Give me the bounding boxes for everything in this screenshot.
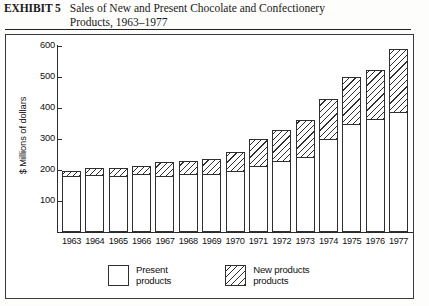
legend-swatch-hatched-square bbox=[225, 265, 246, 286]
bar-1974 bbox=[319, 99, 338, 232]
bar-segment-present-products-1971 bbox=[250, 167, 267, 231]
bar-segment-present-products-1967 bbox=[156, 177, 173, 231]
bar-1973 bbox=[296, 120, 315, 232]
bar-segment-present-products-1969 bbox=[203, 175, 220, 231]
bar-1967 bbox=[155, 162, 174, 232]
x-tick-label-1977: 1977 bbox=[382, 236, 416, 246]
bar-segment-present-products-1977 bbox=[390, 113, 407, 231]
legend-label-line-2: products bbox=[136, 275, 171, 286]
legend-item-present-products: Presentproducts bbox=[108, 264, 171, 286]
bar-1965 bbox=[109, 168, 128, 232]
legend-label: New productsproducts bbox=[253, 264, 309, 286]
bar-segment-new-products-1970 bbox=[227, 153, 244, 172]
bar-1969 bbox=[202, 159, 221, 232]
bar-segment-new-products-1968 bbox=[180, 162, 197, 176]
bar-segment-present-products-1963 bbox=[63, 177, 80, 231]
legend-label: Presentproducts bbox=[136, 264, 171, 286]
bar-1977 bbox=[389, 49, 408, 232]
bar-segment-present-products-1964 bbox=[86, 176, 103, 231]
legend-label-line-1: New products bbox=[253, 264, 309, 275]
bar-segment-new-products-1977 bbox=[390, 50, 407, 113]
chart-legend: PresentproductsNew productsproducts bbox=[108, 264, 309, 286]
bar-1971 bbox=[249, 139, 268, 232]
bar-segment-present-products-1966 bbox=[133, 175, 150, 231]
bar-segment-new-products-1974 bbox=[320, 100, 337, 139]
bar-segment-present-products-1968 bbox=[180, 175, 197, 231]
bar-segment-present-products-1976 bbox=[367, 120, 384, 231]
bar-segment-new-products-1964 bbox=[86, 169, 103, 176]
bar-1972 bbox=[272, 130, 291, 232]
bar-segment-present-products-1975 bbox=[343, 125, 360, 231]
bar-segment-present-products-1965 bbox=[110, 177, 127, 231]
bar-segment-new-products-1975 bbox=[343, 78, 360, 125]
bar-segment-new-products-1969 bbox=[203, 160, 220, 176]
legend-label-line-2: products bbox=[253, 275, 309, 286]
bar-segment-new-products-1967 bbox=[156, 163, 173, 177]
bar-1964 bbox=[85, 168, 104, 232]
bar-segment-new-products-1966 bbox=[133, 167, 150, 174]
legend-swatch-white-square bbox=[108, 265, 129, 286]
legend-item-new-products: New productsproducts bbox=[225, 264, 309, 286]
bar-segment-new-products-1971 bbox=[250, 140, 267, 167]
bar-1968 bbox=[179, 161, 198, 232]
exhibit-figure: EXHIBIT 5 Sales of New and Present Choco… bbox=[0, 0, 429, 306]
legend-label-line-1: Present bbox=[136, 264, 171, 275]
bar-segment-new-products-1972 bbox=[273, 131, 290, 162]
bar-1976 bbox=[366, 70, 385, 232]
bar-segment-new-products-1973 bbox=[297, 121, 314, 159]
bar-series-group bbox=[0, 0, 429, 306]
bar-1966 bbox=[132, 166, 151, 232]
bar-1970 bbox=[226, 152, 245, 232]
bar-segment-present-products-1970 bbox=[227, 172, 244, 231]
bar-1963 bbox=[62, 171, 81, 233]
bar-1975 bbox=[342, 77, 361, 232]
bar-segment-new-products-1976 bbox=[367, 71, 384, 121]
bar-segment-present-products-1973 bbox=[297, 158, 314, 231]
bar-segment-present-products-1974 bbox=[320, 140, 337, 231]
bar-segment-new-products-1965 bbox=[110, 169, 127, 176]
bar-segment-present-products-1972 bbox=[273, 162, 290, 231]
